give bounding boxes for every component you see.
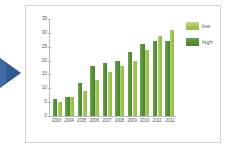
legend-label: low bbox=[202, 23, 210, 29]
x-axis-tick-label: 2012 bbox=[163, 117, 176, 129]
bar-group bbox=[114, 19, 127, 116]
chart-panel: 05101520253035 2003200420052006200720082… bbox=[25, 5, 221, 143]
bar-low[interactable] bbox=[58, 102, 62, 116]
bar-low[interactable] bbox=[133, 61, 137, 116]
legend-label: high bbox=[202, 39, 213, 45]
y-axis-tick-mark bbox=[48, 88, 51, 89]
bar-group bbox=[151, 19, 164, 116]
play-triangle-right-icon[interactable] bbox=[0, 56, 22, 90]
bar-high[interactable] bbox=[165, 41, 169, 116]
x-axis-tick-label: 2009 bbox=[126, 117, 139, 129]
bar-group bbox=[89, 19, 102, 116]
bar-low[interactable] bbox=[145, 50, 149, 117]
legend-swatch-high bbox=[186, 38, 199, 46]
bar-high[interactable] bbox=[153, 41, 157, 116]
y-axis-tick-labels: 05101520253035 bbox=[32, 19, 47, 116]
bar-group bbox=[139, 19, 152, 116]
x-axis-tick-label: 2011 bbox=[151, 117, 164, 129]
y-axis-tick-label: 15 bbox=[32, 72, 47, 77]
y-axis-tick-label: 35 bbox=[32, 16, 47, 21]
bar-group bbox=[76, 19, 89, 116]
chart-plot-area bbox=[49, 19, 176, 117]
bar-high[interactable] bbox=[90, 66, 94, 116]
bar-high[interactable] bbox=[65, 97, 69, 116]
bar-low[interactable] bbox=[95, 80, 99, 116]
bar-high[interactable] bbox=[53, 99, 57, 116]
bar-low[interactable] bbox=[108, 72, 112, 116]
y-axis-tick-label: 30 bbox=[32, 30, 47, 35]
legend-swatch-low bbox=[186, 22, 199, 30]
x-axis-tick-label: 2007 bbox=[100, 117, 113, 129]
bar-group bbox=[126, 19, 139, 116]
chart-plot-wrap: 05101520253035 2003200420052006200720082… bbox=[32, 12, 182, 132]
x-axis-tick-label: 2003 bbox=[50, 117, 63, 129]
x-axis-tick-label: 2004 bbox=[63, 117, 76, 129]
bar-low[interactable] bbox=[83, 91, 87, 116]
legend-item-high[interactable]: high bbox=[186, 38, 220, 46]
x-axis-tick-label: 2008 bbox=[113, 117, 126, 129]
y-axis-tick-label: 10 bbox=[32, 86, 47, 91]
bar-group bbox=[64, 19, 77, 116]
y-axis-tick-label: 25 bbox=[32, 44, 47, 49]
y-axis-tick-mark bbox=[48, 74, 51, 75]
y-axis-tick-mark bbox=[48, 19, 51, 20]
x-axis-tick-label: 2005 bbox=[75, 117, 88, 129]
legend-item-low[interactable]: low bbox=[186, 22, 220, 30]
x-axis-tick-label: 2010 bbox=[138, 117, 151, 129]
bar-high[interactable] bbox=[140, 44, 144, 116]
bar-low[interactable] bbox=[170, 30, 174, 116]
bar-group bbox=[164, 19, 177, 116]
y-axis-tick-mark bbox=[48, 47, 51, 48]
x-axis-tick-labels: 2003200420052006200720082009201020112012 bbox=[50, 117, 176, 129]
bar-high[interactable] bbox=[78, 83, 82, 116]
bar-group bbox=[101, 19, 114, 116]
bar-group bbox=[51, 19, 64, 116]
bar-low[interactable] bbox=[158, 36, 162, 116]
bar-high[interactable] bbox=[103, 63, 107, 116]
y-axis-tick-label: 0 bbox=[32, 113, 47, 118]
bar-high[interactable] bbox=[115, 61, 119, 116]
y-axis-tick-mark bbox=[48, 61, 51, 62]
y-axis-tick-label: 5 bbox=[32, 100, 47, 105]
y-axis-tick-mark bbox=[48, 33, 51, 34]
bar-low[interactable] bbox=[70, 97, 74, 116]
y-axis-tick-mark bbox=[48, 102, 51, 103]
bar-high[interactable] bbox=[128, 52, 132, 116]
x-axis-tick-label: 2006 bbox=[88, 117, 101, 129]
bar-low[interactable] bbox=[120, 66, 124, 116]
y-axis-tick-label: 20 bbox=[32, 58, 47, 63]
screenshot-root: 05101520253035 2003200420052006200720082… bbox=[0, 0, 227, 148]
bar-series-container bbox=[51, 19, 176, 116]
chart-legend: lowhigh bbox=[186, 22, 220, 54]
